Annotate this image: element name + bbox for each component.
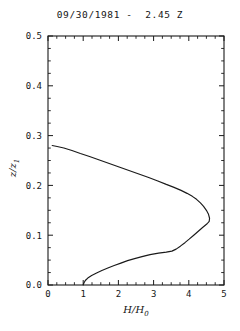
y-tick-label: 0.5 <box>26 31 42 41</box>
y-tick-labels: 0.00.10.20.30.40.5 <box>26 31 42 290</box>
minor-tick-group <box>48 36 224 285</box>
x-tick-label: 0 <box>45 289 50 299</box>
chart-figure: 09/30/1981 - 2.45 Z 0.00.10.20.30.40.5 0… <box>0 0 240 331</box>
y-axis-title: z/z1 <box>7 159 21 178</box>
x-tick-label: 3 <box>151 289 156 299</box>
y-tick-label: 0.0 <box>26 280 42 290</box>
x-axis-title: H/H0 <box>122 304 149 318</box>
y-tick-label: 0.4 <box>26 81 42 91</box>
plot-area: 0.00.10.20.30.40.5 012345 z/z1 H/H0 <box>0 0 240 331</box>
data-curve <box>52 146 209 285</box>
x-axis-title-text: H/H0 <box>122 304 149 318</box>
x-tick-label: 2 <box>116 289 121 299</box>
x-tick-label: 5 <box>221 289 226 299</box>
x-tick-label: 1 <box>80 289 85 299</box>
axis-frame <box>48 36 224 285</box>
y-axis-title-text: z/z1 <box>7 159 21 178</box>
y-tick-label: 0.2 <box>26 181 42 191</box>
y-tick-label: 0.3 <box>26 131 42 141</box>
x-tick-labels: 012345 <box>45 289 226 299</box>
x-tick-label: 4 <box>186 289 191 299</box>
y-tick-label: 0.1 <box>26 231 42 241</box>
major-tick-group <box>48 36 224 285</box>
